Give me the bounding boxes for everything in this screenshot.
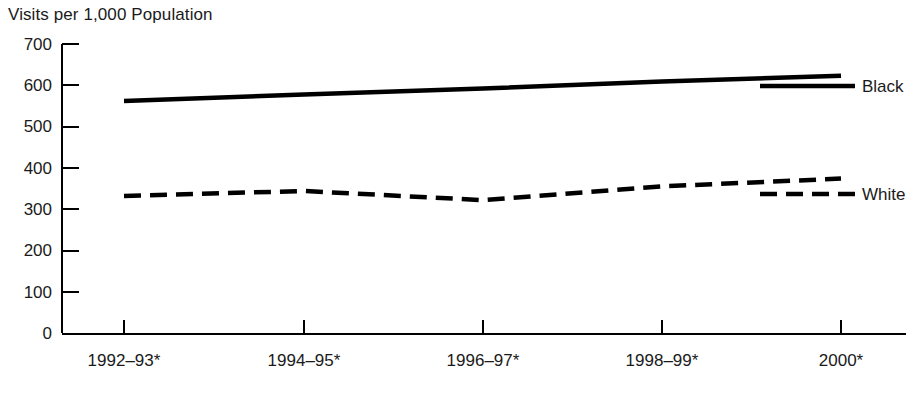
- series-line-white: [124, 179, 841, 201]
- y-axis-ticks: [62, 44, 79, 292]
- chart-container: Visits per 1,000 Population 700 600 500 …: [0, 0, 909, 397]
- plot-area: [0, 0, 909, 397]
- x-axis-ticks: [124, 320, 841, 334]
- series-line-black: [124, 76, 841, 101]
